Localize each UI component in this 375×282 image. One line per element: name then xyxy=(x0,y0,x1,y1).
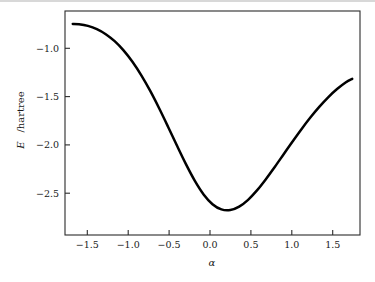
y-axis-label-symbol: E xyxy=(15,141,26,150)
y-tick-label: −1.5 xyxy=(36,91,59,102)
energy-curve-plot: −1.5 −1.0 −0.5 0.0 0.5 1.0 1.5 −1.0 −1.5… xyxy=(0,0,375,282)
x-tick-label: −1.0 xyxy=(117,239,140,250)
y-axis-label-unit: /hartree xyxy=(15,91,26,132)
x-tick-label: 1.5 xyxy=(325,239,340,250)
plot-background xyxy=(65,11,360,235)
x-tick-label: −0.5 xyxy=(158,239,181,250)
x-tick-label: 0.5 xyxy=(243,239,258,250)
y-tick-label: −1.0 xyxy=(36,43,59,54)
x-axis-label: α xyxy=(209,257,216,268)
y-tick-label: −2.0 xyxy=(36,139,59,150)
figure-canvas: −1.5 −1.0 −0.5 0.0 0.5 1.0 1.5 −1.0 −1.5… xyxy=(0,0,375,282)
y-tick-label: −2.5 xyxy=(36,188,59,199)
y-axis-label: E /hartree xyxy=(15,91,26,149)
x-tick-label: 0.0 xyxy=(202,239,217,250)
x-tick-label: −1.5 xyxy=(76,239,99,250)
y-tick-labels: −1.0 −1.5 −2.0 −2.5 xyxy=(36,43,59,199)
x-tick-labels: −1.5 −1.0 −0.5 0.0 0.5 1.0 1.5 xyxy=(76,239,340,250)
x-tick-label: 1.0 xyxy=(284,239,299,250)
